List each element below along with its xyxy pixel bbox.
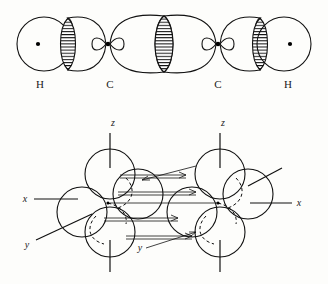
c-left-back-lobe-right	[110, 38, 124, 50]
left-carbon-center-node	[106, 201, 109, 204]
right-lobe-front	[167, 187, 217, 237]
top-panel-sigma-framework: H C C H	[17, 15, 311, 90]
right-carbon-cluster	[167, 133, 292, 272]
left-hidden-arc-top	[118, 178, 132, 208]
h-left-nucleus-dot	[36, 42, 40, 46]
left-lobe-front	[57, 187, 107, 237]
right-hidden-arc-top	[228, 178, 242, 208]
atom-label-h-right: H	[284, 78, 292, 90]
y-axis-left	[36, 214, 92, 240]
orbital-diagram: H C C H	[0, 0, 328, 284]
axis-label-y-left: y	[24, 239, 30, 250]
right-hidden-arc-side	[218, 203, 236, 224]
bottom-panel-p-orbital-overlap: z z x x y y	[22, 117, 302, 272]
right-hidden-arc-bottom	[200, 216, 214, 244]
c-left-back-lobe	[92, 38, 106, 50]
y-axis-right	[248, 168, 282, 186]
right-lobe-back	[223, 169, 273, 219]
axis-label-x-left: x	[22, 193, 28, 204]
overlap-lens-h-c-left	[61, 18, 76, 70]
c-right-back-lobe-left	[202, 38, 216, 50]
axis-label-x-right: x	[296, 197, 302, 208]
h-right-nucleus-dot	[288, 42, 292, 46]
overlap-lens-c-h-right	[253, 18, 268, 70]
atom-label-c-right: C	[214, 78, 221, 90]
c-right-back-lobe-right	[220, 38, 234, 50]
atom-label-h-left: H	[36, 78, 44, 90]
atom-label-c-left: C	[106, 78, 113, 90]
left-carbon-cluster	[34, 133, 163, 272]
left-hidden-arc-bottom	[90, 216, 104, 244]
overlap-arrow-7-line	[146, 232, 196, 248]
axis-label-z-right: z	[220, 117, 225, 128]
axis-label-y-inner: y	[137, 242, 143, 253]
axis-label-z-left: z	[110, 117, 115, 128]
